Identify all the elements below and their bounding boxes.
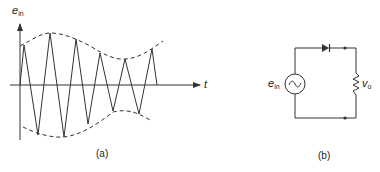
diagram-canvas xyxy=(0,0,380,172)
figure-a xyxy=(10,24,200,140)
upper-envelope xyxy=(20,33,163,59)
resistor-icon xyxy=(353,73,359,95)
figure-b-circuit xyxy=(285,44,359,120)
x-axis-label: t xyxy=(204,78,207,90)
output-label: vo xyxy=(362,77,371,90)
caption-b: (b) xyxy=(318,150,330,161)
ac-source-icon xyxy=(285,74,305,94)
caption-a: (a) xyxy=(96,148,108,159)
terminal-top xyxy=(343,46,346,49)
diode-icon xyxy=(322,44,330,52)
source-label: ein xyxy=(268,77,280,90)
terminal-bottom xyxy=(343,116,346,119)
y-axis-label: ein xyxy=(12,4,24,17)
